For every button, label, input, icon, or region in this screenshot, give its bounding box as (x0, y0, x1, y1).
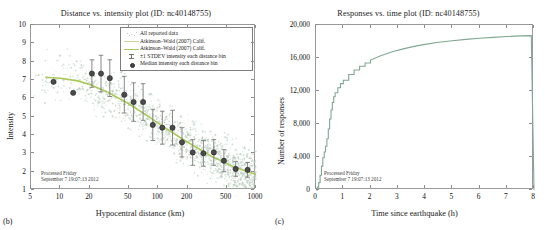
scatter-point (190, 134, 192, 136)
scatter-point (129, 118, 131, 120)
legend-b: All reported data Atkinson–Wald (2007) C… (120, 27, 253, 71)
scatter-point (253, 164, 254, 165)
median-point (179, 140, 184, 145)
scatter-point (234, 182, 236, 184)
scatter-point (185, 151, 187, 153)
scatter-point (208, 143, 209, 144)
y-tick-mark-c (529, 123, 532, 124)
scatter-point (239, 171, 240, 172)
scatter-point (44, 91, 46, 93)
median-point (170, 125, 175, 130)
scatter-point (86, 71, 87, 72)
scatter-point (45, 80, 47, 82)
scatter-point (163, 137, 165, 139)
scatter-point (107, 100, 109, 102)
scatter-point (232, 139, 233, 140)
scatter-point (152, 95, 153, 96)
scatter-point (209, 141, 210, 142)
scatter-point (98, 95, 99, 96)
scatter-point (199, 145, 200, 146)
legend-key-median-marker (123, 60, 140, 68)
scatter-point (202, 159, 204, 161)
scatter-point (130, 110, 132, 112)
scatter-point (184, 123, 185, 124)
scatter-point (224, 174, 226, 176)
scatter-point (105, 81, 107, 83)
scatter-point (83, 90, 84, 91)
scatter-point (108, 83, 109, 84)
scatter-point (198, 163, 199, 164)
scatter-point (201, 126, 202, 127)
scatter-point (227, 166, 229, 168)
scatter-point (185, 135, 186, 136)
scatter-point (201, 163, 202, 164)
scatter-point (117, 108, 118, 109)
scatter-point (52, 74, 54, 76)
x-tick-mark-c (424, 185, 425, 188)
scatter-point (68, 99, 69, 100)
scatter-point (128, 115, 129, 116)
scatter-point (121, 71, 123, 73)
scatter-point (102, 107, 104, 109)
scatter-point (118, 84, 120, 86)
scatter-point (161, 108, 162, 109)
scatter-point (152, 105, 154, 107)
y-tick-label-b-9: 9 (2, 38, 26, 47)
scatter-point (84, 100, 86, 102)
scatter-point (224, 178, 225, 179)
scatter-point (112, 116, 114, 118)
scatter-point (180, 161, 181, 162)
scatter-point (232, 160, 233, 161)
scatter-point (210, 167, 212, 169)
scatter-point (94, 80, 96, 82)
scatter-point (77, 77, 78, 78)
scatter-point (62, 65, 63, 66)
y-tick-mark-c (316, 24, 319, 25)
plot-area-c: Processed Friday September 7 19:07:13 20… (315, 24, 533, 189)
scatter-point (95, 116, 96, 117)
scatter-point (117, 103, 119, 105)
scatter-point (237, 162, 239, 164)
scatter-point (252, 153, 253, 154)
scatter-point (166, 135, 167, 136)
scatter-point (120, 87, 122, 89)
scatter-point (138, 86, 139, 87)
scatter-point (103, 98, 105, 100)
scatter-point (145, 104, 147, 106)
y-tick-mark-b (31, 42, 34, 43)
scatter-point (154, 138, 155, 139)
scatter-point (159, 131, 160, 132)
scatter-point (241, 158, 243, 160)
scatter-point (168, 141, 169, 142)
scatter-point (81, 64, 83, 66)
scatter-point (112, 103, 114, 105)
y-tick-label-c-8,000: 8,000 (272, 119, 310, 128)
scatter-point (83, 75, 85, 77)
scatter-point (83, 79, 85, 81)
scatter-point (145, 121, 146, 122)
scatter-point (44, 102, 46, 104)
scatter-point (46, 82, 48, 84)
scatter-point (113, 86, 115, 88)
scatter-point (204, 158, 205, 159)
legend-label-0: All reported data (140, 30, 178, 38)
scatter-point (232, 154, 234, 156)
scatter-point (185, 144, 186, 145)
scatter-point (81, 66, 82, 67)
scatter-point (119, 117, 120, 118)
cumulative-responses-curve (316, 36, 534, 190)
scatter-point (144, 124, 145, 125)
scatter-point (169, 114, 171, 116)
watermark-c: Processed Friday September 7 19:07:13 20… (324, 170, 382, 182)
scatter-point (151, 132, 152, 133)
scatter-point (227, 160, 228, 161)
scatter-point (225, 152, 227, 154)
scatter-point (188, 165, 190, 167)
scatter-point (159, 106, 161, 108)
scatter-point (172, 106, 174, 108)
scatter-point (236, 185, 238, 187)
scatter-point (244, 173, 246, 175)
scatter-point (156, 107, 157, 108)
scatter-point (206, 137, 207, 138)
y-tick-label-c-4,000: 4,000 (272, 152, 310, 161)
